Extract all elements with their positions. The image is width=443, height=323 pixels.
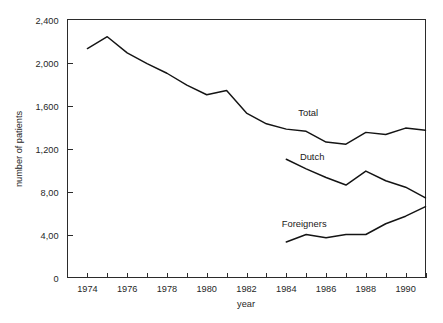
y-tick-label-400: 4,00 [41, 231, 59, 241]
y-tick-label-0: 0 [53, 274, 58, 284]
data-series-group [87, 37, 425, 242]
x-tick-label-1984: 1984 [276, 284, 296, 294]
x-tick-label-1980: 1980 [196, 284, 216, 294]
y-tick-label-800: 8,00 [41, 188, 59, 198]
series-label-total: Total [298, 107, 318, 118]
y-tick-label-1600: 1,600 [36, 102, 59, 112]
series-line-total [87, 37, 425, 145]
series-line-dutch [286, 159, 425, 198]
y-tick-label-2400: 2,400 [36, 16, 59, 26]
x-axis-title: year [237, 299, 255, 309]
x-tick-label-1978: 1978 [157, 284, 177, 294]
y-axis-tick-labels: 04,008,001,2001,6002,0002,400 [36, 16, 59, 284]
y-axis-ticks [68, 64, 73, 236]
series-label-dutch: Dutch [300, 151, 325, 162]
y-tick-label-1200: 1,200 [36, 145, 59, 155]
line-chart: 04,008,001,2001,6002,0002,400 1974197619… [0, 0, 443, 323]
y-tick-label-2000: 2,000 [36, 59, 59, 69]
x-tick-label-1982: 1982 [236, 284, 256, 294]
chart-container: 04,008,001,2001,6002,0002,400 1974197619… [0, 0, 443, 323]
x-axis-tick-labels: 197419761978198019821984198619881990 [77, 284, 416, 294]
y-axis-title: number of patients [14, 111, 24, 188]
x-tick-label-1976: 1976 [117, 284, 137, 294]
x-tick-label-1986: 1986 [316, 284, 336, 294]
x-tick-label-1990: 1990 [395, 284, 415, 294]
series-label-foreigners: Foreigners [282, 218, 327, 229]
x-tick-label-1974: 1974 [77, 284, 97, 294]
axis-frame [68, 20, 426, 278]
plot-frame [68, 20, 426, 278]
x-axis-ticks [88, 273, 427, 278]
x-tick-label-1988: 1988 [356, 284, 376, 294]
